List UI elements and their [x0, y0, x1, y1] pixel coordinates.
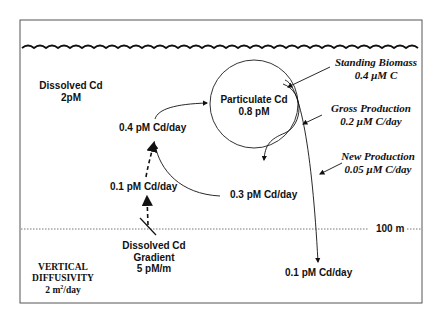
gradient-line1: Dissolved Cd: [114, 240, 194, 252]
standing-biomass-value: 0.4 μM C: [328, 69, 424, 82]
regeneration-flux-label: 0.3 pM Cd/day: [230, 189, 297, 201]
uptake-flux-label: 0.4 pM Cd/day: [119, 122, 186, 134]
standing-biomass-label: Standing Biomass 0.4 μM C: [328, 56, 424, 81]
diffusivity-line2: DIFFUSIVITY: [30, 273, 96, 284]
particulate-cd-value: 0.8 pM: [212, 106, 296, 118]
dissolved-cd-label: Dissolved Cd 2pM: [35, 80, 107, 103]
diffusion-arrow-upper: [146, 143, 154, 177]
diffusivity-line1: VERTICAL: [30, 262, 96, 273]
diffusion-arrow-lower: [147, 197, 148, 225]
new-production-value: 0.05 μM C/day: [330, 163, 426, 176]
diffusivity-label: VERTICAL DIFFUSIVITY 2 m2/day: [30, 262, 96, 296]
diffusivity-value: 2 m2/day: [30, 284, 96, 296]
dissolved-cd-value: 2pM: [35, 92, 107, 104]
diffusivity-value-prefix: 2 m: [45, 285, 60, 295]
depth-marker-label: 100 m: [376, 223, 404, 235]
gradient-value: 5 pM/m: [114, 263, 194, 275]
export-flux-label: 0.1 pM Cd/day: [285, 267, 352, 279]
gradient-line2: Gradient: [114, 252, 194, 264]
vertical-supply-flux-label: 0.1 pM Cd/day: [110, 181, 177, 193]
new-production-title: New Production: [330, 150, 426, 163]
standing-biomass-pointer: [288, 67, 330, 87]
gross-production-title: Gross Production: [320, 102, 422, 115]
gross-production-value: 0.2 μM C/day: [320, 115, 422, 128]
gradient-label: Dissolved Cd Gradient 5 pM/m: [114, 240, 194, 275]
new-production-label: New Production 0.05 μM C/day: [330, 150, 426, 175]
particulate-cd-label: Particulate Cd 0.8 pM: [212, 94, 296, 117]
gross-production-label: Gross Production 0.2 μM C/day: [320, 102, 422, 127]
sea-surface-wave: [22, 46, 418, 49]
dissolved-cd-title: Dissolved Cd: [35, 80, 107, 92]
gradient-slash: [140, 218, 156, 235]
particulate-cd-title: Particulate Cd: [212, 94, 296, 106]
diffusivity-value-suffix: /day: [63, 285, 80, 295]
uptake-arrow: [155, 103, 207, 119]
standing-biomass-title: Standing Biomass: [328, 56, 424, 69]
